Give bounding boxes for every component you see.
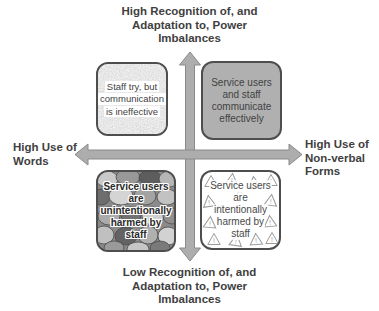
axis-label-bottom: Low Recognition of, and Adaptation to, P… [0,266,379,307]
quadrant-text-line: communication [98,93,166,105]
quadrant-text-line: harmed by [216,216,265,228]
quadrant-text: Service users are intentionally harmed b… [209,180,272,240]
quadrant-text-line: harmed by [111,217,162,229]
quadrant-text-line: are [128,193,143,205]
quadrant-text-line: staff [230,228,251,240]
quadrant-top-left: Staff try, but communication is ineffect… [96,62,168,136]
quadrant-text-line: Service users [103,181,168,193]
quadrant-text-line: and staff [222,89,260,101]
quadrant-bottom-left: Service users are unintentionally harmed… [96,170,176,252]
quadrant-text-line: unintentionally [100,205,171,217]
quadrant-top-right: Service users and staff communicate effe… [201,61,282,140]
quadrant-text: Service users and staff communicate effe… [211,77,272,125]
quadrant-text-line: are [232,192,248,204]
quadrant-text-line: effectively [219,113,263,125]
quadrant-text: Service users are unintentionally harmed… [100,181,171,241]
quadrant-text-line: staff [125,229,146,241]
axis-label-left: High Use of Words [13,141,77,168]
quadrant-diagram: High Recognition of, and Adaptation to, … [0,0,379,311]
quadrant-text-line: communicate [212,101,271,113]
quadrant-text-line: is ineffective [104,106,160,118]
quadrant-text-line: Service users [209,180,272,192]
axis-label-right: High Use of Non-verbal Forms [305,138,369,179]
quadrant-text-line: Service users [211,77,272,89]
quadrant-text-line: Staff try, but [105,81,159,93]
quadrant-text-line: intentionally [213,204,268,216]
quadrant-text: Staff try, but communication is ineffect… [98,80,166,118]
quadrant-bottom-right: ! ! ! ! ! ! ! ! ! ! ! ! Service users ar… [200,170,281,250]
